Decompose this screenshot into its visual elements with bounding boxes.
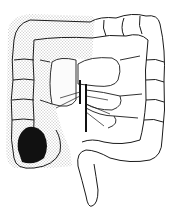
sigmoid-colon xyxy=(78,140,150,206)
descending-colon xyxy=(140,24,165,160)
colon-diagram xyxy=(0,0,172,214)
transverse-colon xyxy=(90,14,160,40)
mesenteric-vessels xyxy=(80,80,86,132)
